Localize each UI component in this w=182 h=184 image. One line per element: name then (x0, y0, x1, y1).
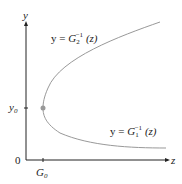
diagram: y z 0 G0 y0 y = G2−1 (z) y = G1−1 (z) (0, 0, 182, 184)
z-axis-label: z (170, 154, 176, 166)
lower-curve-label: y = G1−1 (z) (110, 124, 157, 139)
z-axis-arrow-icon (165, 158, 170, 162)
y-axis-arrow-icon (24, 21, 28, 26)
vertex-point (41, 106, 46, 111)
y0-label: y0 (8, 101, 18, 115)
upper-curve-label: y = G2−1 (z) (51, 31, 98, 46)
y-axis-label: y (22, 9, 28, 21)
origin-label: 0 (15, 154, 21, 166)
g0-label: G0 (36, 166, 48, 180)
